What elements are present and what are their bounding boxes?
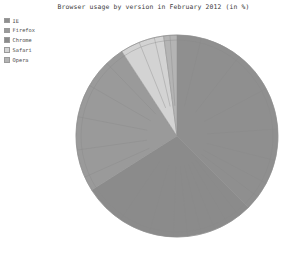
pie-chart-figure: Browser usage by version in February 201…: [0, 0, 307, 258]
pie-plot-area: [0, 0, 307, 258]
pie-svg: [0, 0, 307, 258]
